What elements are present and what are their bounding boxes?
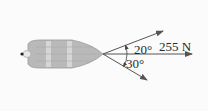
- angle-arc-upper: [126, 46, 128, 55]
- force-arrow-upper: [103, 31, 163, 54]
- boat: [20, 40, 103, 68]
- boat-force-diagram: [0, 0, 208, 111]
- diagram-canvas: 20° 30° 255 N: [0, 0, 208, 111]
- motor: [23, 51, 31, 58]
- angle-label-30: 30°: [126, 56, 144, 72]
- resultant-label: 255 N: [159, 39, 191, 55]
- motor-cap: [20, 52, 23, 55]
